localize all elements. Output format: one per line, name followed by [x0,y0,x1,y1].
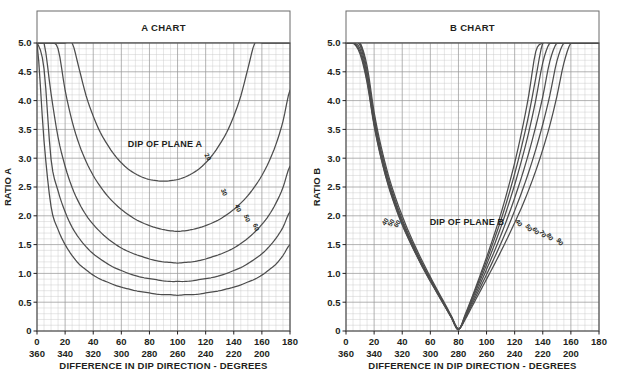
svg-text:140: 140 [226,336,242,347]
chart-a-title: A CHART [141,22,186,33]
svg-text:40: 40 [88,336,99,347]
chart-a-x-axis-title: DIFFERENCE IN DIP DIRECTION - DEGREES [59,360,267,371]
svg-text:280: 280 [142,348,158,359]
svg-text:4.0: 4.0 [18,95,31,106]
svg-text:220: 220 [226,348,242,359]
svg-text:80: 80 [453,336,464,347]
chart-b-svg: B CHART 00.51.01.52.02.53.03.54.04.55.00… [309,0,618,376]
svg-text:0.5: 0.5 [18,297,32,308]
svg-text:300: 300 [422,348,438,359]
svg-text:1.0: 1.0 [18,268,31,279]
svg-text:280: 280 [451,348,467,359]
svg-text:5.0: 5.0 [327,37,340,48]
svg-text:200: 200 [254,348,270,359]
svg-text:4.5: 4.5 [327,66,341,77]
figure-root: A CHART 00.51.01.52.02.53.03.54.04.55.00… [0,0,618,376]
svg-text:260: 260 [479,348,495,359]
svg-text:40: 40 [397,336,408,347]
svg-text:160: 160 [254,336,270,347]
svg-text:300: 300 [113,348,129,359]
svg-text:5.0: 5.0 [18,37,31,48]
svg-text:1.5: 1.5 [18,239,32,250]
svg-text:1.0: 1.0 [327,268,340,279]
chart-a-annotation: DIP OF PLANE A [128,139,203,149]
chart-b-x-axis-title: DIFFERENCE IN DIP DIRECTION - DEGREES [368,360,576,371]
svg-text:1.5: 1.5 [327,239,341,250]
svg-text:60: 60 [116,336,127,347]
chart-a-panel: A CHART 00.51.01.52.02.53.03.54.04.55.00… [0,0,309,376]
svg-text:2.0: 2.0 [18,210,31,221]
svg-text:100: 100 [170,336,186,347]
svg-text:0: 0 [343,336,348,347]
svg-text:180: 180 [282,336,298,347]
svg-text:60: 60 [425,336,436,347]
svg-text:3.5: 3.5 [327,124,341,135]
svg-text:0: 0 [34,336,39,347]
svg-text:180: 180 [591,336,607,347]
svg-text:120: 120 [198,336,214,347]
svg-text:3.0: 3.0 [327,153,340,164]
svg-text:2.0: 2.0 [327,210,340,221]
chart-a-svg: A CHART 00.51.01.52.02.53.03.54.04.55.00… [0,0,309,376]
chart-b-title: B CHART [450,22,495,33]
svg-text:0: 0 [26,325,31,336]
svg-text:240: 240 [198,348,214,359]
svg-text:320: 320 [394,348,410,359]
svg-text:20: 20 [60,336,71,347]
svg-text:320: 320 [85,348,101,359]
svg-text:160: 160 [563,336,579,347]
svg-text:360: 360 [29,348,45,359]
svg-text:3.0: 3.0 [18,153,31,164]
chart-b-y-axis-title: RATIO B [311,168,322,206]
svg-text:260: 260 [170,348,186,359]
svg-text:3.5: 3.5 [18,124,32,135]
svg-text:4.5: 4.5 [18,66,32,77]
svg-text:240: 240 [507,348,523,359]
svg-text:2.5: 2.5 [18,181,32,192]
svg-text:200: 200 [563,348,579,359]
svg-text:340: 340 [366,348,382,359]
svg-text:4.0: 4.0 [327,95,340,106]
svg-text:220: 220 [535,348,551,359]
chart-b-panel: B CHART 00.51.01.52.02.53.03.54.04.55.00… [309,0,618,376]
chart-a-y-axis-title: RATIO A [2,168,13,206]
svg-text:120: 120 [507,336,523,347]
svg-text:0: 0 [335,325,340,336]
svg-text:100: 100 [479,336,495,347]
chart-b-annotation: DIP OF PLANE B [430,217,505,227]
svg-text:360: 360 [338,348,354,359]
svg-text:340: 340 [57,348,73,359]
svg-text:20: 20 [369,336,380,347]
svg-text:2.5: 2.5 [327,181,341,192]
svg-text:80: 80 [144,336,155,347]
svg-text:140: 140 [535,336,551,347]
svg-text:0.5: 0.5 [327,297,341,308]
